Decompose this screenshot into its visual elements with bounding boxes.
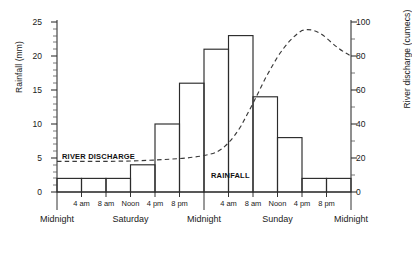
x-label-midnight-end: Midnight (318, 214, 384, 224)
x-tick-sat-8pm: 8 pm (163, 199, 197, 208)
x-tick-sun-8pm: 8 pm (310, 199, 344, 208)
annotation-rainfall: RAINFALL (211, 171, 250, 180)
annotation-river-discharge: RIVER DISCHARGE (62, 152, 135, 161)
x-label-midnight-start: Midnight (24, 214, 90, 224)
x-label-day-sunday: Sunday (238, 214, 318, 224)
x-label-day-saturday: Saturday (91, 214, 171, 224)
x-label-midnight-mid: Midnight (171, 214, 237, 224)
